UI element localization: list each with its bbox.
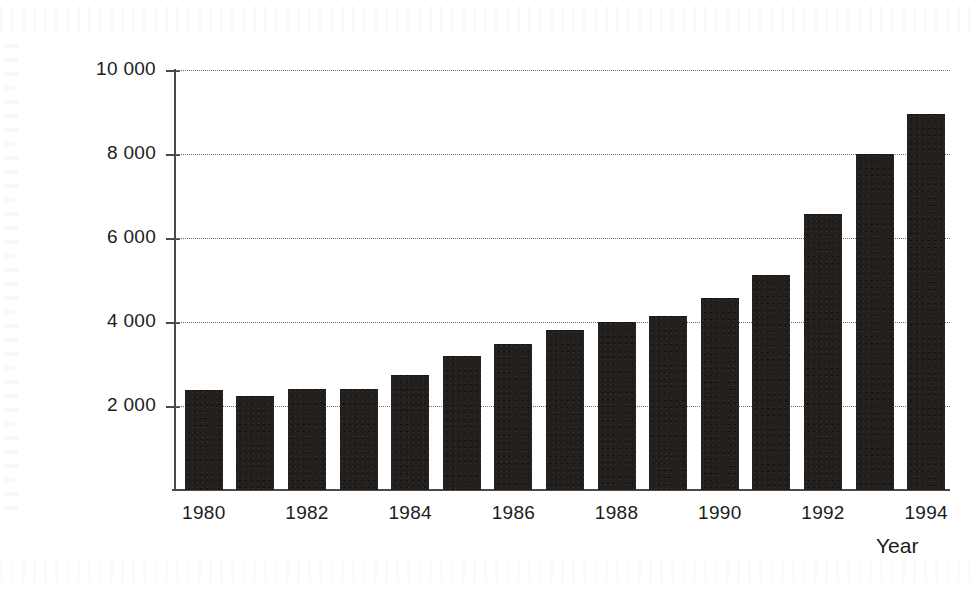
x-tick-label-1984: 1984 — [360, 502, 460, 524]
x-tick-label-1986: 1986 — [463, 502, 563, 524]
bar-1989 — [649, 316, 687, 490]
bar-1985 — [443, 356, 481, 490]
bar-1993 — [856, 154, 894, 490]
bar-1991 — [752, 275, 790, 490]
bar-1990 — [701, 298, 739, 490]
y-tick-label-8000: 8 000 — [16, 142, 156, 164]
x-tick-label-1980: 1980 — [154, 502, 254, 524]
bar-1986 — [494, 344, 532, 490]
bar-1981 — [236, 396, 274, 490]
bar-1984 — [391, 375, 429, 490]
y-tick-label-2000: 2 000 — [16, 394, 156, 416]
x-tick-label-1990: 1990 — [670, 502, 770, 524]
x-tick-label-1992: 1992 — [773, 502, 873, 524]
bar-1983 — [340, 389, 378, 490]
x-axis-title: Year — [876, 534, 918, 558]
bar-1987 — [546, 330, 584, 490]
plot-area — [176, 70, 950, 490]
bar-chart: Productivity, m3 man-yr.-1 2 0004 0006 0… — [0, 0, 979, 590]
x-tick-label-1982: 1982 — [257, 502, 357, 524]
bar-1992 — [804, 214, 842, 490]
bar-1988 — [598, 322, 636, 490]
y-tick-label-6000: 6 000 — [16, 226, 156, 248]
gridline-8000 — [176, 154, 950, 155]
gridline-10000 — [176, 70, 950, 71]
x-tick-label-1994: 1994 — [876, 502, 976, 524]
bar-1980 — [185, 390, 223, 490]
y-tick-label-10000: 10 000 — [16, 58, 156, 80]
scanned-figure-page: Productivity, m3 man-yr.-1 2 0004 0006 0… — [0, 0, 979, 590]
y-tick-label-4000: 4 000 — [16, 310, 156, 332]
bar-1994 — [907, 114, 945, 490]
bar-1982 — [288, 389, 326, 490]
x-tick-label-1988: 1988 — [567, 502, 667, 524]
